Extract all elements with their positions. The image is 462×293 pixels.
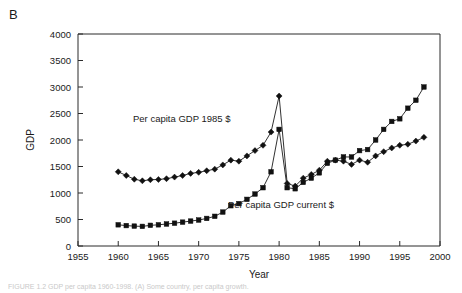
y-tick-label: 4000 [50,29,71,40]
x-axis-ticks: 1955196019651970197519801985199019952000 [67,241,450,262]
x-tick-label: 1995 [389,251,410,262]
data-point-diamond [252,148,258,154]
data-point-diamond [357,157,363,163]
plot-frame [78,34,440,246]
data-point-diamond [220,162,226,168]
data-point-diamond [349,161,355,167]
data-point-square [116,223,121,228]
data-point-square [140,224,145,229]
data-point-square [277,127,282,132]
x-tick-label: 1955 [67,251,88,262]
y-axis-title: GDP [25,129,36,151]
data-point-square [172,221,177,226]
x-axis-title: Year [249,269,270,280]
data-point-diamond [139,178,145,184]
data-point-diamond [228,157,234,163]
data-point-square [389,119,394,124]
data-point-diamond [131,176,137,182]
data-point-diamond [196,169,202,175]
data-point-square [309,176,314,181]
data-point-square [221,210,226,215]
y-tick-label: 1000 [50,188,71,199]
data-point-diamond [421,134,427,140]
gdp-line-chart: 05001000150020002500300035004000 1955196… [0,0,462,293]
annotation-gdp-1985: Per capita GDP 1985 $ [133,113,231,124]
y-tick-label: 3000 [50,82,71,93]
data-point-square [164,222,169,227]
data-point-diamond [123,173,129,179]
data-point-diamond [413,138,419,144]
data-point-square [414,98,419,103]
data-point-square [317,171,322,176]
annotation-gdp-current: Per capita GDP current $ [228,199,335,210]
data-point-square [132,224,137,229]
data-point-square [325,161,330,166]
data-point-diamond [147,177,153,183]
data-point-square [124,223,129,228]
data-point-square [365,147,370,152]
x-tick-label: 2000 [429,251,450,262]
y-tick-label: 1500 [50,161,71,172]
data-point-square [422,85,427,90]
data-point-diamond [163,176,169,182]
data-point-square [397,117,402,122]
x-tick-label: 1965 [148,251,169,262]
data-point-square [381,127,386,132]
y-tick-label: 0 [66,241,71,252]
data-point-square [148,223,153,228]
chart-svg: 05001000150020002500300035004000 1955196… [0,0,462,293]
y-tick-label: 2000 [50,135,71,146]
data-point-diamond [212,166,218,172]
data-point-diamond [276,93,282,99]
data-point-square [285,185,290,190]
y-tick-label: 500 [55,214,71,225]
data-point-diamond [389,145,395,151]
data-point-square [188,219,193,224]
data-point-diamond [172,174,178,180]
data-point-square [293,186,298,191]
data-point-diamond [405,141,411,147]
data-point-square [406,106,411,111]
series-annotations: Per capita GDP 1985 $Per capita GDP curr… [133,113,335,210]
x-tick-label: 1975 [228,251,249,262]
data-point-diamond [244,153,250,159]
data-point-square [196,218,201,223]
x-tick-label: 1990 [349,251,370,262]
figure-caption: FIGURE 1.2 GDP per capita 1960-1998. (A)… [8,283,458,293]
data-point-square [333,158,338,163]
data-point-diamond [204,168,210,174]
plot-border [78,34,440,246]
data-point-diamond [115,169,121,175]
data-point-square [357,148,362,153]
data-point-diamond [260,142,266,148]
data-point-diamond [268,129,274,135]
data-point-square [261,185,266,190]
data-point-square [180,220,185,225]
x-tick-label: 1960 [108,251,129,262]
data-point-square [373,138,378,143]
data-point-square [204,216,209,221]
data-point-square [349,155,354,160]
data-point-square [253,192,258,197]
x-tick-label: 1980 [269,251,290,262]
data-point-diamond [236,158,242,164]
x-tick-label: 1985 [309,251,330,262]
data-point-square [212,214,217,219]
x-tick-label: 1970 [188,251,209,262]
data-point-diamond [397,142,403,148]
data-point-square [156,223,161,228]
data-point-square [341,155,346,160]
data-point-square [269,170,274,175]
data-point-diamond [180,173,186,179]
y-tick-label: 2500 [50,108,71,119]
data-point-diamond [188,170,194,176]
data-point-diamond [381,149,387,155]
data-point-square [301,180,306,185]
data-point-diamond [155,176,161,182]
y-tick-label: 3500 [50,55,71,66]
